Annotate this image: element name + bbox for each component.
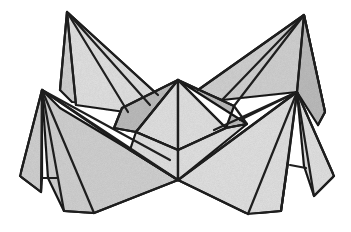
fold-line — [41, 90, 42, 192]
origami-crown-drawing — [0, 0, 351, 232]
origami-figure — [0, 0, 351, 232]
